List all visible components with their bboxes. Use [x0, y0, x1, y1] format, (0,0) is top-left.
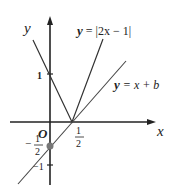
line-curve-label: y = x + b: [112, 77, 159, 92]
intercept-point: [47, 143, 54, 150]
abs-label-rest: = |2x − 1|: [83, 24, 131, 38]
y-tick-1-label: 1: [37, 70, 42, 81]
x-half-den: 2: [76, 138, 81, 149]
line-label-rest: = x + b: [120, 78, 160, 92]
graph: y x O 1 −1 1 2 − 1 2 y = |2x − 1| y = x …: [0, 0, 171, 191]
y-neg-half-num: 1: [35, 133, 40, 144]
abs-curve-label: y = |2x − 1|: [75, 23, 131, 38]
x-axis-arrow-icon: [147, 119, 156, 125]
y-tick-neg1-label: −1: [33, 161, 44, 172]
x-half-num: 1: [76, 125, 81, 136]
y-axis-arrow-icon: [47, 16, 53, 25]
y-neg-half-sign: −: [25, 137, 31, 149]
x-axis-label: x: [156, 123, 164, 139]
y-axis-label: y: [22, 20, 31, 36]
abs-curve: [33, 39, 103, 122]
y-neg-half-den: 2: [35, 146, 40, 157]
